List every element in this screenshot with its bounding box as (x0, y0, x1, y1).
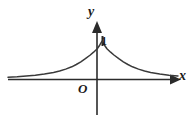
math-figure: y x O 1 (0, 0, 194, 123)
x-axis-label: x (179, 69, 186, 83)
function-graph-svg (0, 0, 194, 123)
y-axis-arrowhead (92, 21, 102, 33)
peak-value-label: 1 (101, 35, 107, 47)
y-axis-label: y (88, 5, 94, 19)
origin-label: O (78, 82, 87, 95)
function-curve (8, 41, 178, 77)
